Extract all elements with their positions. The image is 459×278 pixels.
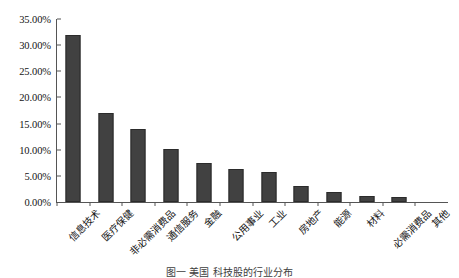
y-axis-tick-label: 15.00% [19,118,57,129]
y-axis-tick-label: 0.00% [24,197,57,208]
bar-group: 金融 [187,19,220,202]
bar-group: 能源 [318,19,351,202]
bar [164,149,179,202]
bar-group: 医疗保健 [90,19,123,202]
bar-group: 材料 [350,19,383,202]
x-axis-category-label: 医疗保健 [98,206,136,244]
x-axis-tick-mark [252,202,253,206]
y-axis-tick-label: 5.00% [24,170,57,181]
y-axis-tick-label: 10.00% [19,144,57,155]
x-axis-category-label: 房地产 [295,206,326,237]
x-axis-tick-mark [350,202,351,206]
bar [131,129,146,202]
x-axis-tick-mark [187,202,188,206]
y-axis-tick-label: 25.00% [19,66,57,77]
bar [326,192,341,202]
bar [261,172,276,202]
x-axis-tick-mark [154,202,155,206]
bar [229,169,244,202]
bar-group: 公用事业 [220,19,253,202]
x-axis-tick-mark [219,202,220,206]
y-axis-tick-label: 35.00% [19,14,57,25]
y-axis-tick-label: 20.00% [19,92,57,103]
bar [98,113,113,202]
bar-group: 必需消费品 [383,19,416,202]
x-axis-category-label: 工业 [265,206,289,230]
x-axis-tick-mark [317,202,318,206]
plot-area: 0.00%5.00%10.00%15.00%20.00%25.00%30.00%… [56,19,448,203]
bar-group: 工业 [253,19,286,202]
x-axis-tick-mark [57,202,58,206]
y-axis-tick-label: 30.00% [19,40,57,51]
x-axis-tick-mark [122,202,123,206]
bar [196,163,211,202]
bar [392,197,407,202]
x-axis-category-label: 能源 [330,206,354,230]
x-axis-category-label: 信息技术 [65,206,103,244]
bar-group: 非必需消费品 [122,19,155,202]
bar-group: 其他 [415,19,448,202]
bar-group: 房地产 [285,19,318,202]
x-axis-category-label: 材料 [363,206,387,230]
bar [359,196,374,202]
x-axis-tick-mark [382,202,383,206]
bar [294,186,309,202]
x-axis-tick-mark [285,202,286,206]
bar-series: 信息技术医疗保健非必需消费品通信服务金融公用事业工业房地产能源材料必需消费品其他 [57,19,448,202]
bar-group: 通信服务 [155,19,188,202]
x-axis-category-label: 必需消费品 [389,206,434,251]
figure-caption: 图一 美国 科技股的行业分布 [0,267,459,278]
bar [66,35,81,202]
x-axis-category-label: 公用事业 [228,206,266,244]
x-axis-category-label: 金融 [200,206,224,230]
x-axis-tick-mark [89,202,90,206]
x-axis-tick-mark [415,202,416,206]
x-axis-category-label: 其他 [428,206,452,230]
bar-group: 信息技术 [57,19,90,202]
